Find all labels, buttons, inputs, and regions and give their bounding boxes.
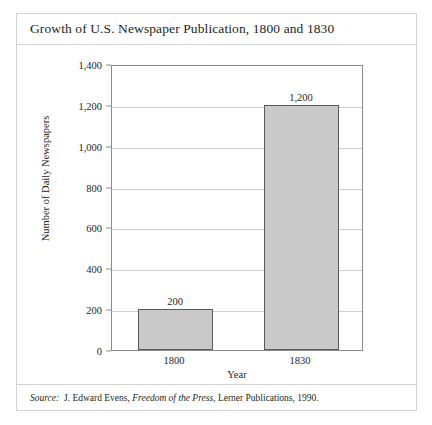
- y-axis-ticks: 02004006008001,0001,2001,400: [17, 65, 111, 351]
- source-label: Source:: [30, 393, 59, 403]
- bar-1800[interactable]: 200: [138, 309, 213, 350]
- x-tick-label: 1800: [164, 355, 185, 366]
- page-title: Growth of U.S. Newspaper Publication, 18…: [17, 21, 334, 37]
- source-note: Source: J. Edward Evens, Freedom of the …: [17, 393, 319, 403]
- y-tick-label: 1,200: [78, 100, 102, 111]
- source-publisher: , Lerner Publications, 1990.: [213, 393, 319, 403]
- x-axis-ticks: 18001830: [111, 351, 363, 371]
- figure-card: Growth of U.S. Newspaper Publication, 18…: [16, 13, 417, 411]
- x-axis-title: Year: [111, 369, 363, 380]
- y-tick-label: 0: [97, 346, 102, 357]
- source-work-title: Freedom of the Press: [132, 393, 213, 403]
- chart-plot-region: Number of Daily Newspapers 0200400600800…: [17, 45, 416, 385]
- y-tick-label: 600: [86, 223, 102, 234]
- source-bar: Source: J. Edward Evens, Freedom of the …: [17, 384, 416, 410]
- bars-layer: 2001,200: [112, 66, 362, 350]
- chart-title-bar: Growth of U.S. Newspaper Publication, 18…: [17, 14, 416, 45]
- bar-value-label: 1,200: [289, 92, 313, 103]
- y-tick-label: 1,400: [78, 60, 102, 71]
- plot-area: 2001,200: [111, 65, 363, 351]
- y-tick-label: 1,000: [78, 141, 102, 152]
- y-tick-label: 400: [86, 264, 102, 275]
- source-author: J. Edward Evens,: [64, 393, 130, 403]
- bar-1830[interactable]: 1,200: [264, 105, 339, 350]
- x-tick-label: 1830: [290, 355, 311, 366]
- y-tick-label: 200: [86, 305, 102, 316]
- bar-value-label: 200: [167, 296, 183, 307]
- y-tick-label: 800: [86, 182, 102, 193]
